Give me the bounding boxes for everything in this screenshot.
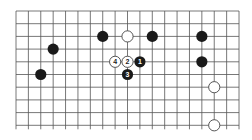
white-stone[interactable] <box>122 31 133 42</box>
black-stone[interactable] <box>147 31 158 42</box>
black-stone[interactable] <box>35 69 46 80</box>
move-number-label: 2 <box>126 58 130 65</box>
white-stone[interactable]: 4 <box>110 56 121 67</box>
black-stone[interactable]: 1 <box>134 56 145 67</box>
black-stone[interactable] <box>196 31 207 42</box>
white-stone[interactable] <box>209 120 220 131</box>
black-stone[interactable]: 3 <box>122 69 133 80</box>
move-number-label: 4 <box>113 58 117 65</box>
black-stone[interactable] <box>48 44 59 55</box>
move-number-label: 3 <box>126 71 130 78</box>
go-board[interactable]: 4213 <box>0 0 252 140</box>
white-stone[interactable]: 2 <box>122 56 133 67</box>
black-stone[interactable] <box>196 56 207 67</box>
move-number-label: 1 <box>138 58 142 65</box>
white-stone[interactable] <box>209 82 220 93</box>
black-stone[interactable] <box>97 31 108 42</box>
